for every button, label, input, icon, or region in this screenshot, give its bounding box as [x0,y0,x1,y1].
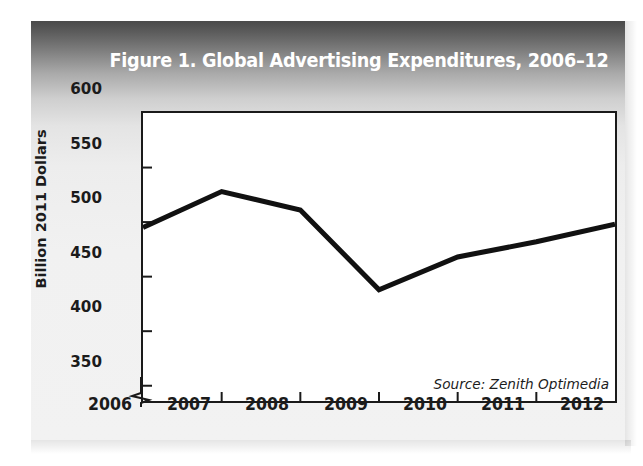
figure-panel: Figure 1. Global Advertising Expenditure… [31,21,625,440]
y-tick-label: 500 [50,188,102,207]
x-tick-label: 2008 [230,394,304,414]
x-tick-label: 2006 [73,394,147,414]
x-tick-label: 2007 [151,394,225,414]
plot-area [141,111,617,403]
y-axis-tick-marks [143,168,152,386]
x-tick-label: 2011 [466,394,540,414]
chart-plot-svg [143,113,615,401]
page-shadow-right [625,21,637,446]
x-axis-tick-labels: 2006200720082009201020112012 [0,394,643,420]
page-shadow-bottom [31,440,631,454]
data-series-line [143,192,615,290]
y-tick-label: 550 [50,134,102,153]
x-tick-label: 2009 [309,394,383,414]
x-tick-label: 2010 [387,394,461,414]
y-tick-label: 600 [50,79,102,98]
y-tick-label: 450 [50,243,102,262]
y-tick-label: 400 [50,297,102,316]
chart-title: Figure 1. Global Advertising Expenditure… [83,49,635,71]
y-tick-label: 350 [50,352,102,371]
source-note: Source: Zenith Optimedia [395,376,609,392]
x-tick-label: 2012 [545,394,619,414]
y-axis-tick-labels: 350400450500550600 [42,90,102,378]
